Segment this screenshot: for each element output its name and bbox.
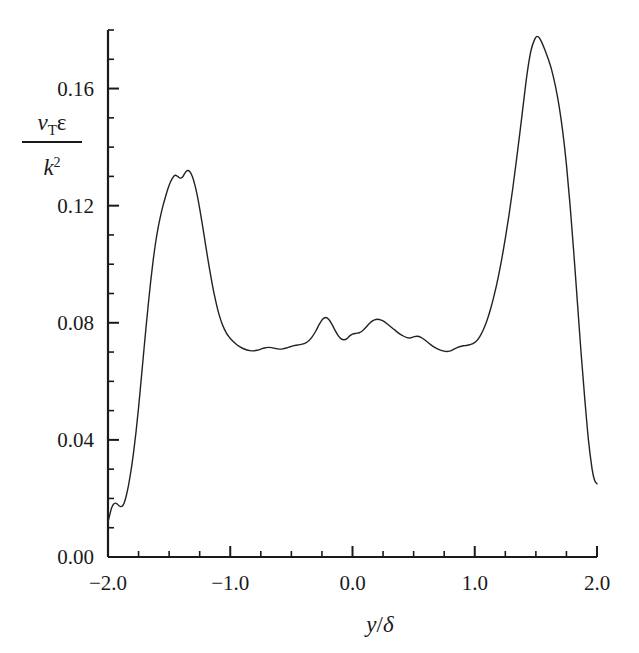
- y-tick-label: 0.08: [57, 311, 94, 335]
- y-tick-label: 0.00: [57, 545, 94, 569]
- chart-svg: 0.000.040.080.120.16 −2.0−1.00.01.02.0 ν…: [0, 0, 639, 653]
- x-tick-label: 0.0: [339, 571, 365, 595]
- y-tick-label: 0.12: [57, 194, 94, 218]
- x-tick-label: 2.0: [584, 571, 610, 595]
- x-tick-label: 1.0: [462, 571, 488, 595]
- x-tick-label: −1.0: [211, 571, 249, 595]
- x-tick-label: −2.0: [89, 571, 127, 595]
- figure-container: 0.000.040.080.120.16 −2.0−1.00.01.02.0 ν…: [0, 0, 639, 653]
- y-tick-label: 0.04: [57, 428, 94, 452]
- x-axis-title: y/δ: [364, 612, 394, 637]
- y-tick-label: 0.16: [57, 77, 94, 101]
- chart-background: [0, 0, 639, 653]
